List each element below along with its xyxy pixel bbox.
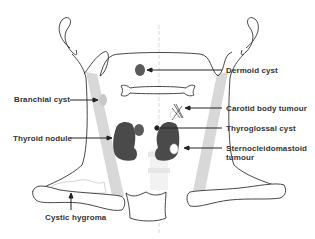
hyoid-bone — [121, 85, 195, 96]
thyroglossal-cyst-shape — [134, 124, 144, 136]
left-neck-outline — [32, 54, 87, 192]
label-branchial-cyst: Branchial cyst — [14, 95, 70, 104]
label-sternocleidomastoid-tumour-line1: Sternocleidomastoid — [226, 144, 307, 153]
label-cystic-hygroma: Cystic hygroma — [45, 213, 106, 222]
mandible-outline — [84, 52, 232, 76]
manubrium — [126, 192, 166, 221]
left-ear — [59, 18, 77, 55]
sternocleidomastoid-tumour-shape — [170, 144, 178, 154]
neck-diagram — [0, 0, 315, 239]
right-ear — [241, 18, 258, 55]
dermoid-cyst-shape — [135, 64, 145, 76]
label-carotid-body-tumour: Carotid body tumour — [226, 104, 307, 113]
label-dermoid-cyst: Dermoid cyst — [226, 66, 278, 75]
thyroid-left-lobe — [113, 122, 137, 161]
branchial-cyst-shape — [99, 94, 107, 106]
label-thyroglossal-cyst: Thyroglossal cyst — [226, 124, 296, 133]
right-sternocleidomastoid — [192, 72, 228, 196]
label-thyroid-nodule: Thyroid nodule — [13, 134, 72, 143]
label-sternocleidomastoid-tumour-line2: tumour — [226, 153, 254, 162]
